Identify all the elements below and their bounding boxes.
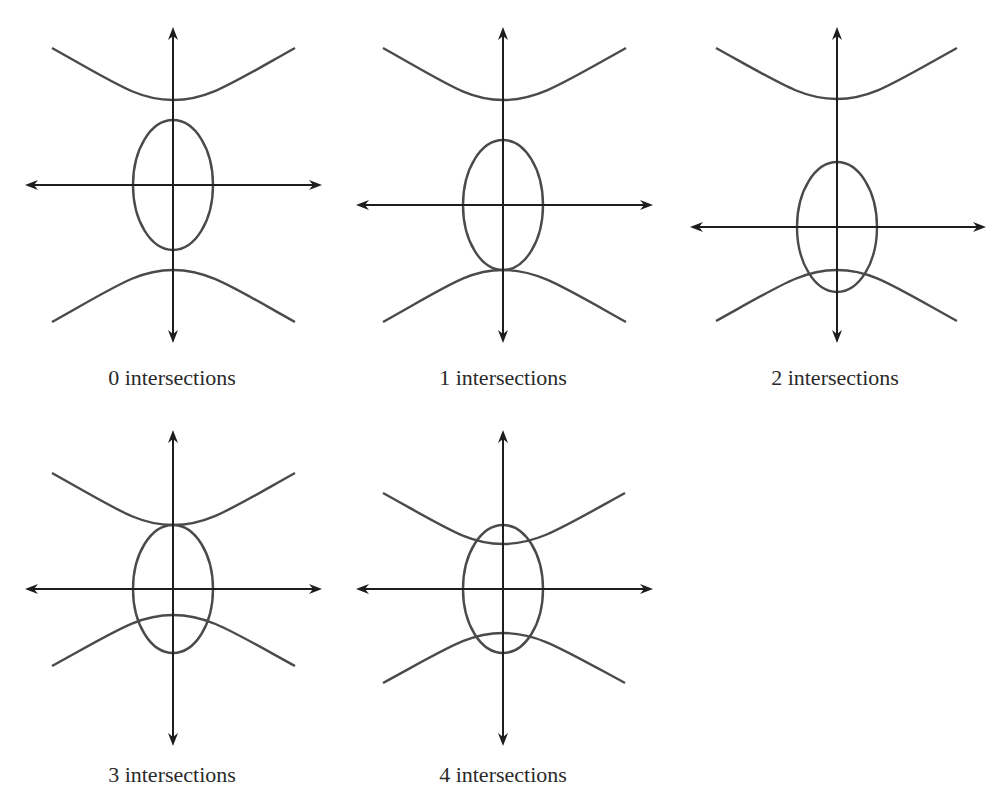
panel-label-1-intersections: 1 intersections [439,366,567,390]
graph-panel-3 [25,430,322,746]
graph-panel-1 [356,27,653,343]
panel-label-3-intersections: 3 intersections [108,763,236,787]
graph-panel-2 [690,27,986,343]
figure-canvas [0,0,995,790]
panel-label-4-intersections: 4 intersections [439,763,567,787]
panel-label-0-intersections: 0 intersections [108,366,236,390]
panel-label-2-intersections: 2 intersections [771,366,899,390]
graph-panel-0 [25,27,322,343]
graph-panel-4 [356,430,653,746]
hyperbola-lower-branch [383,270,626,322]
hyperbola-upper-branch [383,48,626,100]
